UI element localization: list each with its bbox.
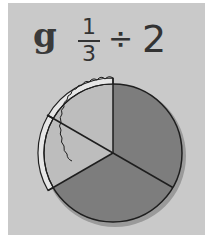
pie-diagram [0, 0, 212, 252]
